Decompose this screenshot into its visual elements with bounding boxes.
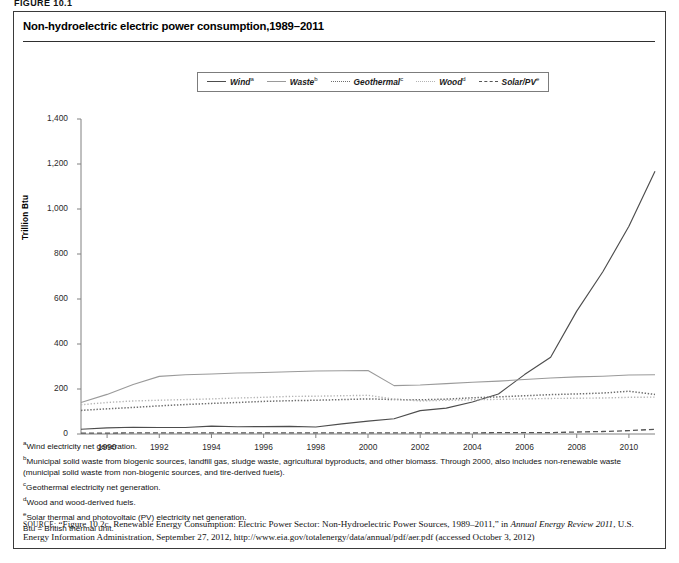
source-citation: SOURCE: “Figure 10.2c. Renewable Energy … [23, 518, 652, 544]
series-line-waste [81, 371, 655, 403]
source-prefix: SOURCE: [23, 520, 56, 529]
source-italic: Annual Energy Review 2011 [510, 519, 613, 529]
footnote: cGeothermal electricity net generation. [23, 478, 651, 493]
footnote: bMunicipal solid waste from biogenic sou… [23, 452, 651, 478]
figure-page: FIGURE 10.1 Non-hydroelectric electric p… [0, 0, 679, 563]
footnote: aWind electricity net generation. [23, 437, 651, 452]
figure-label: FIGURE 10.1 [14, 0, 72, 8]
series-line-wind [81, 171, 655, 429]
series-line-geothermal [81, 391, 655, 410]
figure-frame: Non-hydroelectric electric power consump… [13, 11, 666, 549]
axis-lines [81, 119, 655, 434]
footnote: dWood and wood-derived fuels. [23, 493, 651, 508]
series-line-solar-pv [81, 429, 655, 433]
source-text-1: “Figure 10.2c. Renewable Energy Consumpt… [56, 519, 510, 529]
series-line-wood [81, 395, 655, 404]
